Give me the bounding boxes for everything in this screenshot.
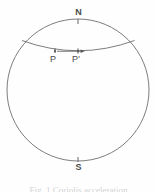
point-p-label: P (50, 55, 56, 64)
point-p-dot-icon (54, 50, 56, 52)
point-p-prime-label: P' (72, 55, 80, 64)
sphere-outline-circle (7, 19, 149, 161)
figure-caption: Fig. 1 Coriolis acceleration (0, 185, 157, 192)
south-pole-label: S (0, 163, 157, 172)
motion-arrow-head-icon (81, 49, 86, 53)
figure-container: N S P P' Fig. 1 Coriolis acceleration (0, 0, 157, 192)
north-pole-label: N (0, 8, 157, 17)
